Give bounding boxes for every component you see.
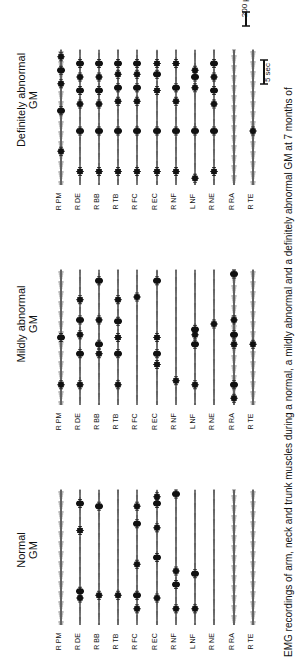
trace-r-de (76, 270, 84, 405)
channel-label: L NF (189, 630, 196, 654)
channel-label: R NF (170, 410, 177, 434)
channel-label: R TB (112, 190, 119, 214)
trace-l-nf (191, 50, 199, 185)
channel-label: R DE (74, 410, 81, 434)
trace-r-ne (210, 50, 218, 185)
trace-r-fc (133, 490, 141, 625)
channel-label: R BB (93, 410, 100, 434)
channel-label: L NF (189, 190, 196, 214)
trace-r-ec (153, 50, 161, 185)
channel-label: R TE (247, 190, 254, 214)
channel-label: R EC (151, 190, 158, 214)
channel-label: R NE (208, 190, 215, 214)
channel-label: R NE (208, 410, 215, 434)
trace-r-pm (57, 270, 65, 405)
channel-label: R FC (131, 190, 138, 214)
channel-label: R NF (170, 190, 177, 214)
time-scale-label: 5 sec (263, 63, 272, 82)
channel-label: R NE (208, 630, 215, 654)
trace-r-te (249, 270, 257, 405)
channel-label: R NF (170, 630, 177, 654)
trace-r-tb (114, 270, 122, 405)
channel-label: R PM (55, 630, 62, 654)
channel-label: R PM (55, 190, 62, 214)
trace-l-nf (191, 270, 199, 405)
trace-r-ra (230, 270, 238, 405)
channel-label: R DE (74, 630, 81, 654)
trace-r-pm (58, 490, 63, 625)
trace-r-tb (114, 50, 122, 185)
channel-label: R FC (131, 630, 138, 654)
trace-l-nf (191, 490, 199, 625)
channel-label: R RA (228, 190, 235, 214)
trace-r-te (250, 490, 255, 625)
trace-r-pm (57, 50, 65, 185)
trace-r-ec (153, 270, 161, 405)
trace-r-fc (133, 270, 141, 405)
channel-label: R RA (228, 630, 235, 654)
channel-label: R EC (151, 410, 158, 434)
trace-r-nf (172, 50, 180, 185)
trace-r-de (76, 50, 84, 185)
channel-label: R DE (74, 190, 81, 214)
trace-r-bb (95, 50, 103, 185)
trace-r-ne (210, 270, 218, 405)
channel-label: R TB (112, 410, 119, 434)
channel-label: R TE (247, 630, 254, 654)
channel-label: R RA (228, 410, 235, 434)
trace-r-ra (231, 490, 236, 625)
trace-r-nf (172, 490, 180, 625)
trace-r-bb (95, 490, 103, 625)
emg-traces (0, 0, 296, 657)
channel-label: R TE (247, 410, 254, 434)
trace-r-nf (172, 270, 180, 405)
figure-caption: EMG recordings of arm, neck and trunk mu… (283, 87, 294, 657)
channel-label: R BB (93, 190, 100, 214)
channel-label: R PM (55, 410, 62, 434)
channel-label: L NF (189, 410, 196, 434)
channel-label: R BB (93, 630, 100, 654)
trace-r-de (76, 490, 84, 625)
trace-r-ec (153, 490, 161, 625)
channel-label: R FC (131, 410, 138, 434)
amplitude-scale-label: 200 µV (240, 0, 249, 17)
trace-r-te (249, 50, 257, 185)
channel-label: R TB (112, 630, 119, 654)
trace-r-fc (133, 50, 141, 185)
trace-r-ne (213, 490, 215, 625)
trace-r-tb (114, 490, 122, 625)
channel-label: R EC (151, 630, 158, 654)
trace-r-ra (231, 50, 236, 185)
trace-r-bb (95, 270, 103, 405)
